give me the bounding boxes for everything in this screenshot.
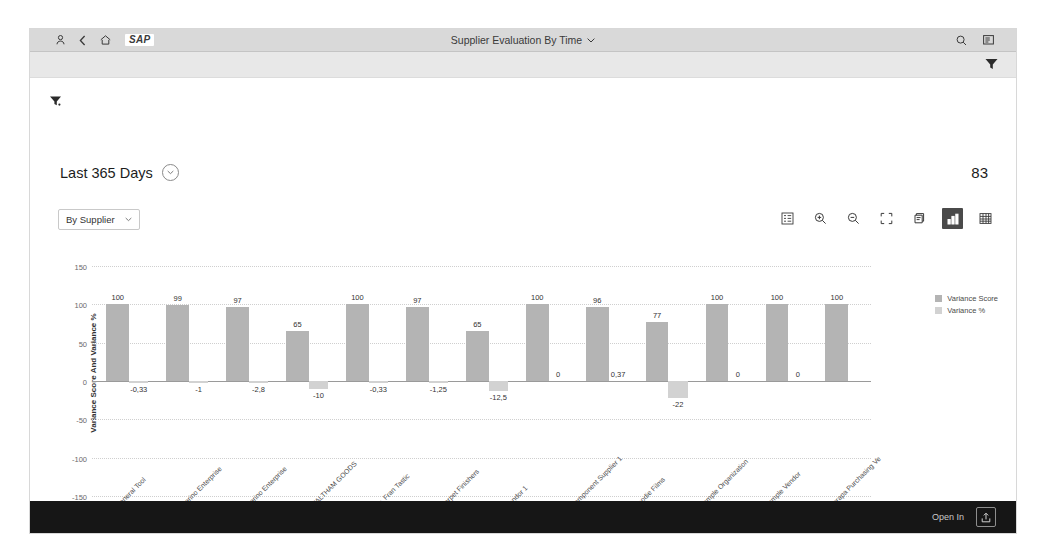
variance-score-bar[interactable] bbox=[346, 304, 369, 381]
chart-legend: Variance ScoreVariance % bbox=[935, 294, 998, 318]
filter-settings-icon[interactable] bbox=[50, 96, 62, 107]
variance-score-bar[interactable] bbox=[825, 304, 848, 381]
variance-pct-label: -1,25 bbox=[430, 385, 447, 394]
variance-pct-bar[interactable] bbox=[369, 381, 388, 383]
legend-label: Variance Score bbox=[947, 294, 998, 303]
kpi-value: 83 bbox=[971, 164, 988, 181]
bar-group[interactable]: 65-10 bbox=[272, 266, 332, 496]
bar-group[interactable]: 1000 bbox=[751, 266, 811, 496]
table-grid-icon[interactable] bbox=[975, 208, 996, 229]
variance-score-bar[interactable] bbox=[226, 307, 249, 381]
variance-pct-bar[interactable] bbox=[189, 381, 208, 383]
bar-group[interactable]: 100-0,33 bbox=[332, 266, 392, 496]
device-frame: SAP Supplier Evaluation By Time bbox=[29, 28, 1017, 534]
y-axis-tick: 0 bbox=[83, 378, 87, 387]
plot-area: 150100500-50-100-150 100-0,3399-197-2,86… bbox=[92, 266, 871, 496]
variance-pct-label: -12,5 bbox=[490, 393, 507, 402]
variance-pct-label: 0 bbox=[796, 370, 800, 379]
y-axis-tick: 100 bbox=[74, 301, 87, 310]
bar-series-group: 100-0,3399-197-2,865-10100-0,3397-1,2565… bbox=[92, 266, 871, 496]
variance-pct-label: -1 bbox=[195, 385, 202, 394]
variance-score-label: 97 bbox=[413, 296, 421, 305]
zoom-out-icon[interactable] bbox=[843, 208, 864, 229]
variance-pct-bar[interactable] bbox=[309, 381, 328, 389]
filter-funnel-icon[interactable] bbox=[985, 58, 998, 70]
variance-score-label: 65 bbox=[473, 320, 481, 329]
variance-pct-label: -0,33 bbox=[370, 385, 387, 394]
variance-score-label: 100 bbox=[531, 293, 544, 302]
dimension-dropdown[interactable]: By Supplier bbox=[58, 209, 140, 230]
variance-pct-label: -2,8 bbox=[252, 385, 265, 394]
variance-pct-bar[interactable] bbox=[489, 381, 508, 391]
drill-down-icon[interactable] bbox=[909, 208, 930, 229]
bar-group[interactable]: 77-22 bbox=[631, 266, 691, 496]
variance-pct-label: 0 bbox=[556, 370, 560, 379]
search-icon[interactable] bbox=[956, 35, 967, 46]
variance-pct-label: -22 bbox=[673, 400, 684, 409]
bar-group[interactable]: 99-1 bbox=[152, 266, 212, 496]
variance-pct-bar[interactable] bbox=[129, 381, 148, 383]
variance-score-bar[interactable] bbox=[766, 304, 789, 381]
page-title: Supplier Evaluation By Time bbox=[451, 34, 582, 46]
chart-container: Variance Score And Variance % Variance S… bbox=[30, 244, 1016, 501]
shell-title-group[interactable]: Supplier Evaluation By Time bbox=[30, 34, 1016, 46]
open-in-label: Open In bbox=[932, 512, 964, 522]
period-label: Last 365 Days bbox=[60, 165, 153, 181]
legend-swatch bbox=[935, 295, 942, 302]
chart-toolbar: By Supplier bbox=[30, 209, 1016, 237]
bar-group[interactable]: 65-12,5 bbox=[452, 266, 512, 496]
shell-header: SAP Supplier Evaluation By Time bbox=[30, 29, 1016, 52]
bar-group[interactable]: 100-0,33 bbox=[92, 266, 152, 496]
chart-tool-buttons bbox=[777, 208, 996, 229]
variance-score-bar[interactable] bbox=[646, 322, 669, 381]
legend-swatch bbox=[935, 307, 942, 314]
y-axis-tick: 150 bbox=[74, 263, 87, 272]
notes-icon[interactable] bbox=[983, 35, 994, 45]
open-in-group[interactable]: Open In bbox=[932, 507, 996, 527]
variance-pct-bar[interactable] bbox=[668, 381, 687, 398]
bar-group[interactable]: 960,37 bbox=[571, 266, 631, 496]
variance-score-bar[interactable] bbox=[586, 307, 609, 381]
chevron-down-circle-icon[interactable] bbox=[162, 164, 179, 181]
bar-chart-icon[interactable] bbox=[942, 208, 963, 229]
kpi-row: Last 365 Days 83 bbox=[30, 164, 1016, 194]
legend-label: Variance % bbox=[947, 306, 985, 315]
zoom-in-icon[interactable] bbox=[810, 208, 831, 229]
variance-score-label: 97 bbox=[233, 296, 241, 305]
legend-item[interactable]: Variance Score bbox=[935, 294, 998, 303]
variance-score-bar[interactable] bbox=[286, 331, 309, 381]
chevron-down-icon[interactable] bbox=[587, 38, 595, 43]
y-axis-tick: 50 bbox=[79, 339, 87, 348]
shell-header-right-actions bbox=[956, 35, 994, 46]
bar-group[interactable]: 1000 bbox=[511, 266, 571, 496]
legend-icon[interactable] bbox=[777, 208, 798, 229]
period-selector[interactable]: Last 365 Days bbox=[60, 164, 179, 181]
variance-score-bar[interactable] bbox=[406, 307, 429, 381]
variance-score-bar[interactable] bbox=[166, 305, 189, 381]
variance-score-bar[interactable] bbox=[106, 304, 129, 381]
legend-item[interactable]: Variance % bbox=[935, 306, 998, 315]
variance-score-label: 100 bbox=[351, 293, 364, 302]
variance-score-label: 96 bbox=[593, 296, 601, 305]
bar-group[interactable]: 97-1,25 bbox=[392, 266, 452, 496]
share-upload-icon[interactable] bbox=[976, 507, 996, 527]
bar-group[interactable]: 97-2,8 bbox=[212, 266, 272, 496]
variance-score-label: 100 bbox=[831, 293, 844, 302]
fullscreen-icon[interactable] bbox=[876, 208, 897, 229]
dimension-label: By Supplier bbox=[66, 214, 115, 225]
variance-score-label: 65 bbox=[293, 320, 301, 329]
variance-pct-bar[interactable] bbox=[249, 381, 268, 383]
variance-score-bar[interactable] bbox=[466, 331, 489, 381]
variance-pct-label: 0,37 bbox=[611, 370, 626, 379]
variance-pct-bar[interactable] bbox=[429, 381, 448, 383]
variance-score-label: 77 bbox=[653, 311, 661, 320]
shell-footer: Open In bbox=[30, 501, 1016, 533]
filter-bar bbox=[30, 52, 1016, 78]
bar-group[interactable]: 100 bbox=[811, 266, 871, 496]
y-axis-tick: -50 bbox=[76, 416, 87, 425]
variance-score-label: 100 bbox=[112, 293, 125, 302]
variance-score-bar[interactable] bbox=[706, 304, 729, 381]
variance-score-bar[interactable] bbox=[526, 304, 549, 381]
chevron-down-icon[interactable] bbox=[125, 217, 132, 222]
variance-score-label: 100 bbox=[771, 293, 784, 302]
